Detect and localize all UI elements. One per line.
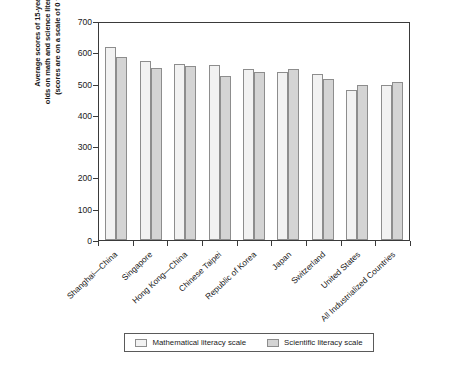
chart-legend: Mathematical literacy scale Scientific l… <box>124 333 374 352</box>
bar-scientific <box>323 79 334 240</box>
bar-mathematical <box>243 69 254 240</box>
y-tick-label-500: 500 <box>62 80 92 89</box>
bar-mathematical <box>209 65 220 240</box>
x-category-label: All Industrialized Countries <box>319 250 397 323</box>
y-axis-title: Average scores of 15-year > 11 olds on m… <box>33 0 62 143</box>
bar-scientific <box>116 57 127 240</box>
x-category-label: Shanghai—China <box>66 250 119 300</box>
bar-mathematical <box>381 85 392 240</box>
y-tick-label-300: 300 <box>62 143 92 152</box>
bar-scientific <box>220 76 231 240</box>
bar-mathematical <box>312 74 323 240</box>
y-tick-label-700: 700 <box>62 18 92 27</box>
chart-figure: Average scores of 15-year > 11 olds on m… <box>0 0 461 377</box>
y-tick-label-600: 600 <box>62 49 92 58</box>
y-tick-label-0: 0 <box>62 237 92 246</box>
legend-label-scientific: Scientific literacy scale <box>284 339 362 347</box>
x-tick-mark <box>271 241 272 246</box>
bar-mathematical <box>277 72 288 240</box>
y-tick-label-400: 400 <box>62 111 92 120</box>
y-axis-title-line-1: Average scores of 15-year > 11 <box>33 0 43 143</box>
bar-mathematical <box>140 61 151 240</box>
bar-group <box>306 23 340 240</box>
bar-group <box>202 23 236 240</box>
bar-scientific <box>185 66 196 240</box>
bar-mathematical <box>346 90 357 240</box>
legend-item-mathematical: Mathematical literacy scale <box>135 339 246 347</box>
bar-mathematical <box>174 64 185 240</box>
bar-group <box>133 23 167 240</box>
x-category-label: Singapore <box>120 250 153 282</box>
bar-group <box>99 23 133 240</box>
legend-swatch-mathematical-icon <box>135 339 147 347</box>
bar-group <box>168 23 202 240</box>
x-tick-mark <box>341 241 342 246</box>
y-tick-label-100: 100 <box>62 205 92 214</box>
bar-group <box>237 23 271 240</box>
bar-groups <box>99 23 409 240</box>
bar-group <box>375 23 409 240</box>
bar-scientific <box>392 82 403 240</box>
y-axis-title-line-2: olds on math and science literacy scales <box>43 0 53 143</box>
legend-swatch-scientific-icon <box>267 339 279 347</box>
x-tick-mark <box>98 241 99 246</box>
x-tick-mark <box>133 241 134 246</box>
bar-scientific <box>357 85 368 240</box>
x-tick-mark <box>167 241 168 246</box>
x-tick-mark <box>306 241 307 246</box>
legend-item-scientific: Scientific literacy scale <box>267 339 362 347</box>
bar-scientific <box>151 68 162 240</box>
x-category-label: Japan <box>270 250 292 271</box>
x-tick-mark <box>202 241 203 246</box>
y-tick-label-200: 200 <box>62 174 92 183</box>
x-tick-mark <box>237 241 238 246</box>
bar-scientific <box>288 69 299 240</box>
x-tick-mark <box>410 241 411 246</box>
x-tick-mark <box>375 241 376 246</box>
plot-area <box>98 22 410 241</box>
legend-label-mathematical: Mathematical literacy scale <box>152 339 246 347</box>
bar-group <box>271 23 305 240</box>
bar-scientific <box>254 72 265 240</box>
bar-mathematical <box>105 47 116 240</box>
bar-group <box>340 23 374 240</box>
